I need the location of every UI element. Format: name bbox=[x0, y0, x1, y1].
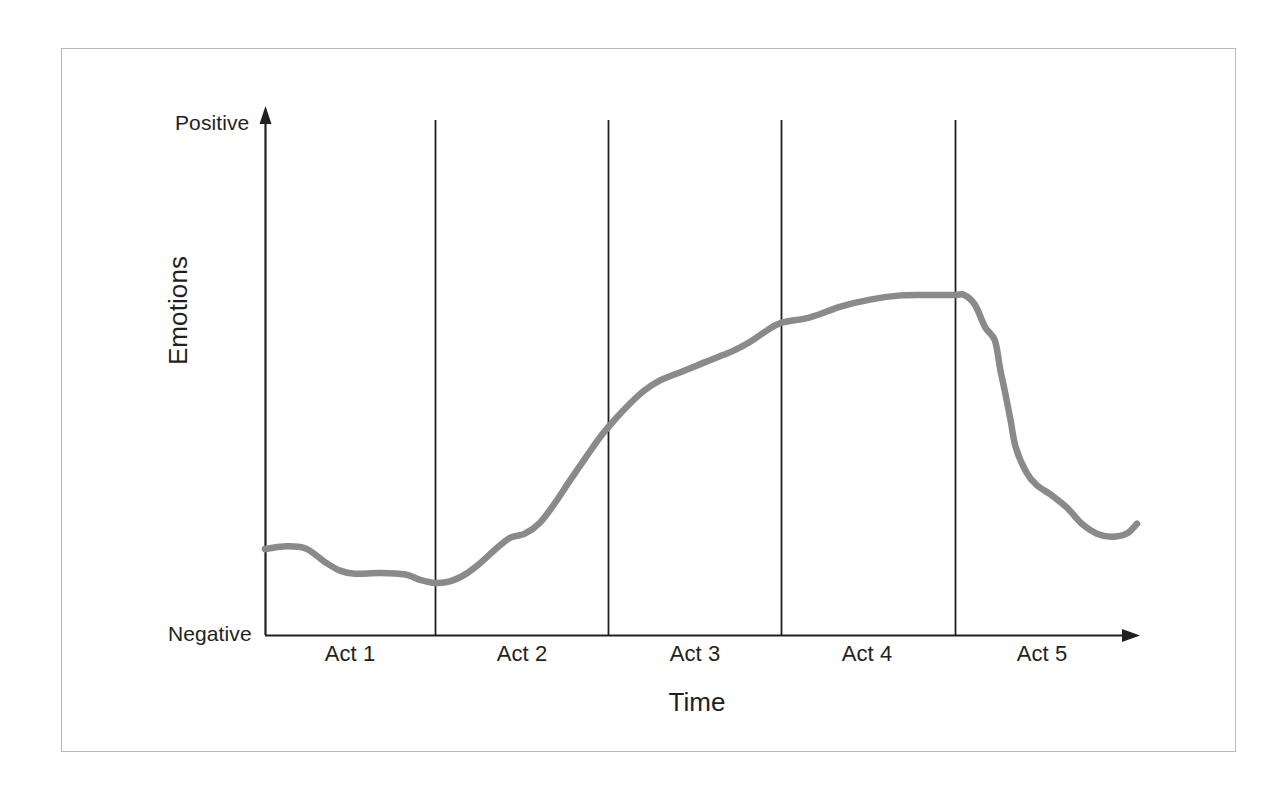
act-label-3: Act 3 bbox=[610, 641, 780, 667]
y-axis-bottom-label: Negative bbox=[168, 622, 252, 646]
y-axis-top-label: Positive bbox=[175, 111, 249, 135]
act-label-2: Act 2 bbox=[437, 641, 607, 667]
act-label-1: Act 1 bbox=[265, 641, 435, 667]
x-axis-title: Time bbox=[617, 687, 777, 718]
emotional-arc-curve bbox=[265, 294, 1137, 583]
y-axis bbox=[260, 106, 272, 635]
emotional-arc-figure: Positive Negative Emotions Act 1 Act 2 A… bbox=[0, 0, 1287, 790]
act-divider-lines bbox=[436, 120, 956, 635]
act-label-5: Act 5 bbox=[957, 641, 1127, 667]
y-axis-title: Emotions bbox=[163, 221, 194, 401]
act-label-4: Act 4 bbox=[782, 641, 952, 667]
